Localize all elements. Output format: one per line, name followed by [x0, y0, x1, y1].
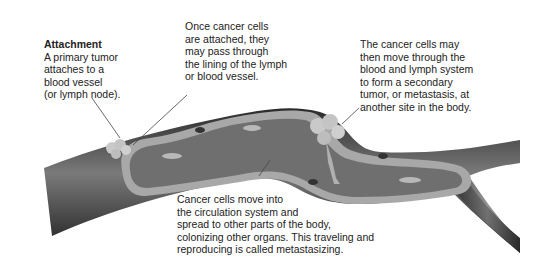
circulation-label: Cancer cells move into the circulation s… — [177, 193, 374, 256]
attachment-label: Attachment A primary tumor attaches to a… — [44, 38, 120, 101]
attachment-title: Attachment — [44, 38, 120, 51]
secondary-tumor-label: The cancer cells may then move through t… — [360, 38, 473, 114]
pass-through-label: Once cancer cells are attached, they may… — [185, 20, 287, 83]
